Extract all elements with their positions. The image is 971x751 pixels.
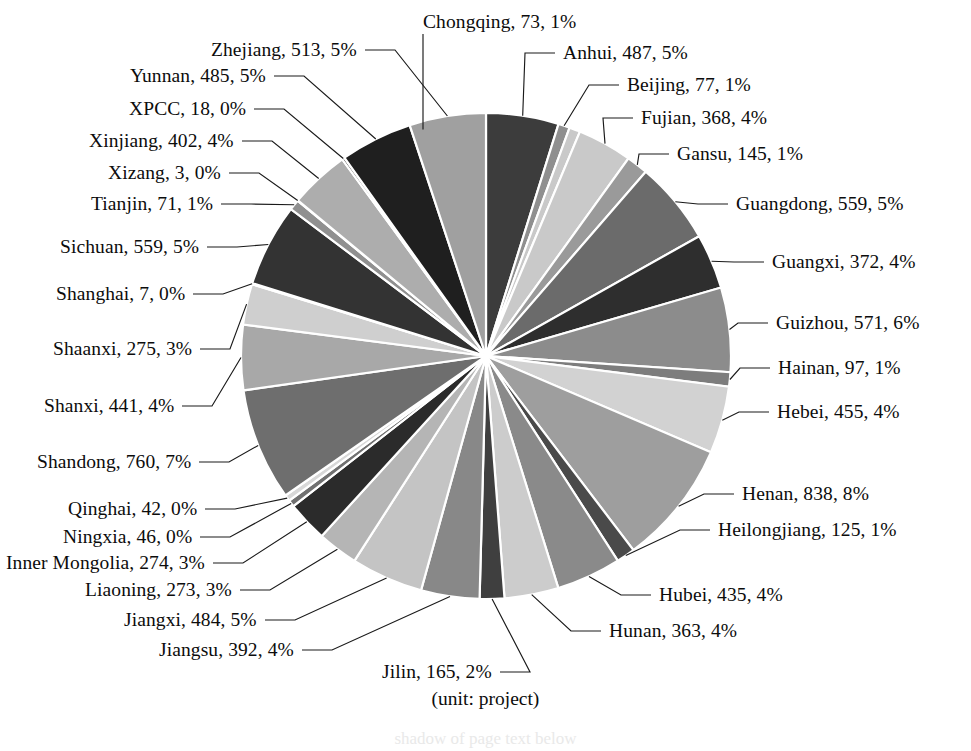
callout-label-sichuan: Sichuan, 559, 5% bbox=[60, 237, 199, 257]
callout-label-xizang: Xizang, 3, 0% bbox=[108, 163, 221, 183]
callout-label-xinjiang: Xinjiang, 402, 4% bbox=[89, 131, 234, 151]
leader-line-gansu bbox=[637, 154, 669, 165]
callout-label-guangxi: Guangxi, 372, 4% bbox=[772, 252, 916, 272]
leader-line-shaanxi bbox=[200, 304, 247, 349]
leader-line-sichuan bbox=[207, 245, 268, 248]
callout-label-shaanxi: Shaanxi, 275, 3% bbox=[53, 339, 192, 359]
leader-line-fujian bbox=[603, 118, 633, 144]
callout-label-guizhou: Guizhou, 571, 6% bbox=[776, 313, 920, 333]
callout-label-hubei: Hubei, 435, 4% bbox=[659, 585, 783, 605]
callout-label-xpcc: XPCC, 18, 0% bbox=[129, 99, 246, 119]
leader-line-guangxi bbox=[712, 261, 764, 262]
callout-label-guangdong: Guangdong, 559, 5% bbox=[736, 194, 904, 214]
callout-label-zhejiang: Zhejiang, 513, 5% bbox=[211, 40, 357, 60]
callout-label-fujian: Fujian, 368, 4% bbox=[641, 108, 767, 128]
leader-line-guangdong bbox=[675, 202, 728, 204]
leader-line-anhui bbox=[523, 53, 555, 116]
callout-label-shanghai: Shanghai, 7, 0% bbox=[56, 284, 185, 304]
callout-label-yunnan: Yunnan, 485, 5% bbox=[130, 66, 266, 86]
callout-label-liaoning: Liaoning, 273, 3% bbox=[85, 580, 232, 600]
leader-line-hubei bbox=[589, 577, 651, 596]
leader-line-jiangxi bbox=[265, 578, 387, 620]
callout-label-hainan: Hainan, 97, 1% bbox=[778, 358, 901, 378]
leader-line-inner-mongolia bbox=[213, 522, 307, 563]
leader-line-guizhou bbox=[730, 323, 769, 330]
callout-label-qinghai: Qinghai, 42, 0% bbox=[68, 499, 197, 519]
callout-label-heilongjiang: Heilongjiang, 125, 1% bbox=[718, 520, 897, 540]
leader-line-tianjin bbox=[221, 204, 294, 205]
callout-label-henan: Henan, 838, 8% bbox=[742, 484, 869, 504]
unit-caption: (unit: project) bbox=[0, 688, 971, 710]
callout-label-chongqing: Chongqing, 73, 1% bbox=[423, 12, 576, 32]
leader-line-shandong bbox=[199, 445, 258, 462]
leader-line-jilin bbox=[492, 599, 530, 672]
callout-label-shandong: Shandong, 760, 7% bbox=[37, 452, 191, 472]
leader-line-zhejiang bbox=[365, 50, 447, 116]
pie-slices-group: Anhui, 487, 5%Beijing, 77, 1%Chongqing, … bbox=[241, 113, 731, 599]
pie-chart-figure: Anhui, 487, 5%Beijing, 77, 1%Chongqing, … bbox=[0, 0, 971, 751]
callout-label-ningxia: Ningxia, 46, 0% bbox=[63, 527, 192, 547]
callout-label-tianjin: Tianjin, 71, 1% bbox=[91, 194, 213, 214]
callout-label-inner-mongolia: Inner Mongolia, 274, 3% bbox=[6, 553, 205, 573]
callout-label-beijing: Beijing, 77, 1% bbox=[627, 75, 751, 95]
leader-line-shanxi bbox=[182, 358, 241, 407]
leader-line-shanghai bbox=[193, 284, 252, 294]
leader-line-xpcc bbox=[254, 109, 343, 159]
callout-label-gansu: Gansu, 145, 1% bbox=[677, 144, 803, 164]
callout-label-jiangsu: Jiangsu, 392, 4% bbox=[159, 640, 294, 660]
leader-line-jiangsu bbox=[302, 596, 450, 650]
leader-line-yunnan bbox=[274, 76, 376, 139]
leader-line-beijing bbox=[564, 85, 619, 126]
callout-label-hebei: Hebei, 455, 4% bbox=[777, 402, 900, 422]
callout-label-anhui: Anhui, 487, 5% bbox=[563, 43, 688, 63]
leader-line-xizang bbox=[229, 173, 298, 201]
leader-line-hunan bbox=[532, 595, 601, 631]
callout-label-hunan: Hunan, 363, 4% bbox=[609, 621, 737, 641]
leader-line-hainan bbox=[730, 368, 770, 380]
leader-line-qinghai bbox=[205, 498, 287, 509]
leader-line-hebei bbox=[722, 412, 769, 420]
callout-label-shanxi: Shanxi, 441, 4% bbox=[44, 396, 174, 416]
callout-label-jiangxi: Jiangxi, 484, 5% bbox=[124, 610, 257, 630]
callout-label-jilin: Jilin, 165, 2% bbox=[382, 662, 492, 682]
